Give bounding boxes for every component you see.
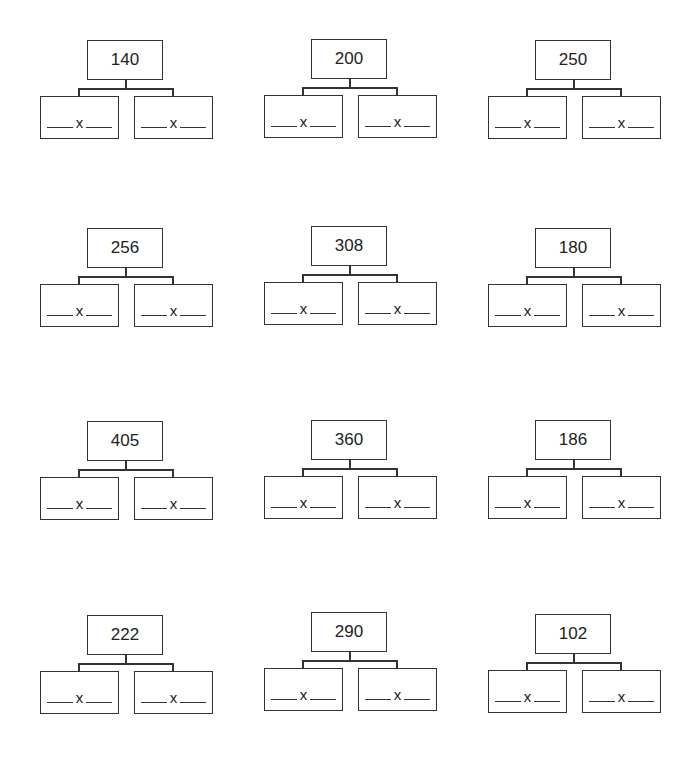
connector-line bbox=[573, 460, 575, 468]
connector-line bbox=[78, 663, 80, 671]
connector-line bbox=[172, 663, 174, 671]
target-number: 222 bbox=[111, 625, 139, 645]
connector-line bbox=[78, 663, 173, 665]
second-factor-blank[interactable] bbox=[628, 507, 654, 509]
factor-pair-box[interactable]: x bbox=[134, 671, 213, 714]
second-factor-blank[interactable] bbox=[534, 315, 560, 317]
connector-line bbox=[526, 276, 528, 284]
second-factor-blank[interactable] bbox=[180, 702, 206, 704]
factor-pair-box[interactable]: x bbox=[40, 477, 119, 520]
second-factor-blank[interactable] bbox=[628, 315, 654, 317]
connector-line bbox=[620, 88, 622, 96]
factor-pair-box[interactable]: x bbox=[488, 670, 567, 713]
second-factor-blank[interactable] bbox=[310, 699, 336, 701]
factor-tree: 222 x x bbox=[40, 615, 214, 715]
second-factor-blank[interactable] bbox=[628, 701, 654, 703]
second-factor-blank[interactable] bbox=[404, 507, 430, 509]
connector-line bbox=[302, 660, 304, 668]
second-factor-blank[interactable] bbox=[534, 701, 560, 703]
factor-pair-box[interactable]: x bbox=[488, 96, 567, 139]
factor-pair-box[interactable]: x bbox=[40, 284, 119, 327]
connector-line bbox=[526, 662, 621, 664]
factor-pair-box[interactable]: x bbox=[582, 284, 661, 327]
connector-line bbox=[396, 468, 398, 476]
target-number: 250 bbox=[559, 50, 587, 70]
second-factor-blank[interactable] bbox=[534, 507, 560, 509]
factor-pair-box[interactable]: x bbox=[40, 671, 119, 714]
factor-pair-box[interactable]: x bbox=[134, 96, 213, 139]
factor-pair-box[interactable]: x bbox=[582, 476, 661, 519]
connector-line bbox=[573, 654, 575, 662]
connector-line bbox=[620, 276, 622, 284]
target-number-box: 360 bbox=[311, 420, 387, 460]
second-factor-blank[interactable] bbox=[404, 126, 430, 128]
target-number-box: 200 bbox=[311, 39, 387, 79]
second-factor-blank[interactable] bbox=[310, 126, 336, 128]
connector-line bbox=[302, 274, 304, 282]
second-factor-blank[interactable] bbox=[180, 315, 206, 317]
target-number: 290 bbox=[335, 622, 363, 642]
factor-pair-box[interactable]: x bbox=[582, 670, 661, 713]
target-number: 200 bbox=[335, 49, 363, 69]
factor-pair-box[interactable]: x bbox=[488, 476, 567, 519]
second-factor-blank[interactable] bbox=[86, 702, 112, 704]
factor-pair-box[interactable]: x bbox=[358, 668, 437, 711]
factor-tree: 186 x x bbox=[488, 420, 662, 520]
factor-pair-box[interactable]: x bbox=[40, 96, 119, 139]
connector-line bbox=[526, 468, 528, 476]
factor-pair-box[interactable]: x bbox=[582, 96, 661, 139]
connector-line bbox=[526, 662, 528, 670]
target-number: 256 bbox=[111, 238, 139, 258]
connector-line bbox=[125, 655, 127, 663]
second-factor-blank[interactable] bbox=[628, 127, 654, 129]
factor-pair-box[interactable]: x bbox=[358, 282, 437, 325]
target-number-box: 290 bbox=[311, 612, 387, 652]
target-number: 180 bbox=[559, 238, 587, 258]
connector-line bbox=[526, 276, 621, 278]
connector-line bbox=[172, 88, 174, 96]
second-factor-blank[interactable] bbox=[404, 699, 430, 701]
factor-pair-box[interactable]: x bbox=[264, 95, 343, 138]
second-factor-blank[interactable] bbox=[86, 127, 112, 129]
factor-tree: 308 x x bbox=[264, 226, 438, 326]
second-factor-blank[interactable] bbox=[86, 508, 112, 510]
target-number-box: 102 bbox=[535, 614, 611, 654]
target-number-box: 140 bbox=[87, 40, 163, 80]
second-factor-blank[interactable] bbox=[310, 507, 336, 509]
target-number-box: 186 bbox=[535, 420, 611, 460]
factor-pair-box[interactable]: x bbox=[264, 476, 343, 519]
connector-line bbox=[302, 87, 397, 89]
factor-tree: 180 x x bbox=[488, 228, 662, 328]
factor-pair-box[interactable]: x bbox=[264, 282, 343, 325]
factor-tree: 290 x x bbox=[264, 612, 438, 712]
factor-pair-box[interactable]: x bbox=[134, 477, 213, 520]
connector-line bbox=[78, 276, 80, 284]
factor-pair-box[interactable]: x bbox=[488, 284, 567, 327]
target-number-box: 308 bbox=[311, 226, 387, 266]
factor-tree: 200 x x bbox=[264, 39, 438, 139]
connector-line bbox=[526, 88, 528, 96]
target-number: 308 bbox=[335, 236, 363, 256]
connector-line bbox=[349, 652, 351, 660]
connector-line bbox=[78, 469, 173, 471]
connector-line bbox=[125, 461, 127, 469]
connector-line bbox=[302, 660, 397, 662]
factor-pair-box[interactable]: x bbox=[134, 284, 213, 327]
second-factor-blank[interactable] bbox=[404, 313, 430, 315]
connector-line bbox=[125, 80, 127, 88]
factor-pair-box[interactable]: x bbox=[358, 95, 437, 138]
connector-line bbox=[620, 468, 622, 476]
second-factor-blank[interactable] bbox=[534, 127, 560, 129]
target-number: 102 bbox=[559, 624, 587, 644]
second-factor-blank[interactable] bbox=[310, 313, 336, 315]
connector-line bbox=[349, 266, 351, 274]
factor-pair-box[interactable]: x bbox=[264, 668, 343, 711]
second-factor-blank[interactable] bbox=[180, 508, 206, 510]
factor-tree: 256 x x bbox=[40, 228, 214, 328]
target-number: 360 bbox=[335, 430, 363, 450]
connector-line bbox=[78, 469, 80, 477]
second-factor-blank[interactable] bbox=[180, 127, 206, 129]
factor-pair-box[interactable]: x bbox=[358, 476, 437, 519]
second-factor-blank[interactable] bbox=[86, 315, 112, 317]
factor-tree: 102 x x bbox=[488, 614, 662, 714]
